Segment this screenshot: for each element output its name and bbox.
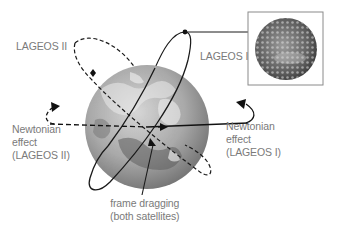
label-frame-dragging: frame dragging (both satellites) bbox=[110, 197, 180, 223]
label-line: (LAGEOS I) bbox=[226, 146, 281, 159]
label-newtonian-effect-lageos-i: Newtonian effect (LAGEOS I) bbox=[226, 120, 281, 159]
orbit-lageos-i-back bbox=[155, 32, 191, 68]
label-line: frame dragging bbox=[110, 197, 180, 210]
orbit-lageos-ii-back bbox=[75, 38, 135, 68]
label-newtonian-effect-lageos-ii: Newtonian effect (LAGEOS II) bbox=[12, 123, 70, 162]
label-lageos-i: LAGEOS I bbox=[200, 50, 248, 63]
label-line: Newtonian bbox=[226, 120, 281, 133]
lageos-ii-satellite-dot bbox=[90, 69, 96, 77]
label-line: (LAGEOS II) bbox=[12, 149, 70, 162]
newtonian-arrow-left bbox=[46, 102, 60, 124]
label-line: (both satellites) bbox=[110, 210, 180, 223]
label-line: effect bbox=[12, 136, 70, 149]
label-line: Newtonian bbox=[12, 123, 70, 136]
label-line: effect bbox=[226, 133, 281, 146]
label-lageos-ii: LAGEOS II bbox=[16, 40, 67, 53]
lageos-satellite-inset bbox=[248, 12, 323, 85]
